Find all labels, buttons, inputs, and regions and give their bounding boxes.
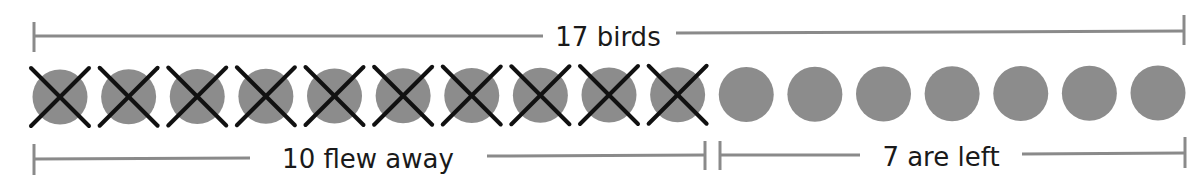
bird-circle-crossed: [374, 67, 432, 125]
circle-icon: [993, 66, 1048, 121]
bird-circle: [993, 66, 1048, 121]
bar-model-diagram: 17 birds 10 flew away 7 are left: [0, 0, 1201, 194]
remaining-label: 7 are left: [882, 142, 999, 172]
bird-circle-crossed: [511, 66, 569, 124]
removed-label: 10 flew away: [282, 144, 454, 174]
bird-circle-crossed: [649, 66, 707, 124]
bird-circle-crossed: [237, 67, 295, 125]
bird-circle-crossed: [100, 68, 158, 126]
bird-circle-crossed: [443, 67, 501, 125]
circle-icon: [787, 67, 842, 122]
circle-icon: [1131, 66, 1186, 121]
bird-circle: [787, 67, 842, 122]
bird-circle: [1062, 66, 1117, 121]
circle-icon: [719, 67, 774, 122]
circle-icon: [925, 66, 980, 121]
bird-circle: [719, 67, 774, 122]
bird-circle-crossed: [168, 68, 226, 126]
bird-circle-crossed: [31, 68, 89, 126]
bird-circle-crossed: [580, 66, 638, 124]
total-label: 17 birds: [555, 22, 660, 52]
bird-circle: [856, 67, 911, 122]
circle-icon: [1062, 66, 1117, 121]
circle-icon: [856, 67, 911, 122]
bird-circle-crossed: [306, 67, 364, 125]
bird-circle: [1131, 66, 1186, 121]
bird-circle: [925, 66, 980, 121]
bird-circles: [31, 66, 1186, 127]
